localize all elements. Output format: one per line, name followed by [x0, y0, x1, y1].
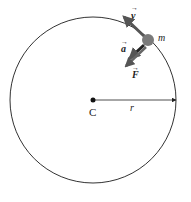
- acceleration-arrow-accent: →: [121, 38, 128, 46]
- circular-motion-diagram: C r v → a → F → m: [0, 0, 191, 202]
- mass-ball: [142, 34, 154, 46]
- diagram-canvas: C r v → a → F → m: [0, 0, 191, 202]
- mass-label: m: [158, 32, 165, 43]
- center-label: C: [89, 106, 96, 118]
- center-point: [91, 98, 96, 103]
- radius-label: r: [130, 102, 134, 113]
- velocity-arrow-accent: →: [131, 4, 138, 12]
- force-arrow-accent: →: [132, 64, 139, 72]
